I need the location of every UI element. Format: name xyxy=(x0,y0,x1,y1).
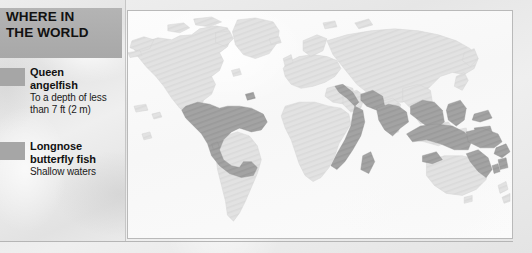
land-canada-arctic-1 xyxy=(168,23,190,33)
land-canada-arctic-2 xyxy=(194,17,222,27)
legend-text-queen-angelfish: Queen angelfish To a depth of less than … xyxy=(30,66,125,116)
land-svalbard xyxy=(323,21,337,29)
highlight-new-guinea-rim xyxy=(466,128,502,148)
highlight-fiji xyxy=(492,164,500,174)
land-new-zealand-1 xyxy=(498,181,508,193)
legend-swatch-queen-angelfish xyxy=(0,68,25,86)
legend-title-queen-angelfish: Queen angelfish xyxy=(30,66,125,91)
legend-swatch-longnose-butterfly-fish xyxy=(0,142,25,160)
land-tasmania xyxy=(464,195,472,203)
panel-divider xyxy=(125,0,126,242)
figure-where-in-the-world: WHERE IN THE WORLD Queen angelfish To a … xyxy=(0,0,532,253)
legend-description-longnose-butterfly-fish: Shallow waters xyxy=(30,166,125,178)
legend-description-queen-angelfish: To a depth of less than 7 ft (2 m) xyxy=(30,92,125,116)
highlight-philippines xyxy=(446,100,466,126)
world-map-svg xyxy=(128,11,512,238)
land-pacific-2 xyxy=(142,132,152,140)
highlight-indonesia xyxy=(407,124,473,150)
highlight-madagascar xyxy=(361,152,375,174)
land-new-zealand-2 xyxy=(502,193,510,203)
land-newfoundland xyxy=(231,68,241,76)
legend-panel: WHERE IN THE WORLD Queen angelfish To a … xyxy=(0,0,126,242)
land-novaya-zemlya xyxy=(355,19,373,29)
world-map-panel xyxy=(127,10,513,239)
land-africa xyxy=(281,102,351,181)
highlight-micronesia-1 xyxy=(472,110,492,122)
land-japan xyxy=(454,72,468,90)
land-scandinavia xyxy=(303,35,327,57)
land-pacific-1 xyxy=(134,104,148,112)
highlight-vanuatu xyxy=(498,158,508,170)
highlight-bermuda xyxy=(245,92,255,100)
highlight-india-coast xyxy=(377,104,409,136)
bottom-divider xyxy=(0,241,513,242)
highlight-southeast-asia xyxy=(411,100,445,128)
legend-text-longnose-butterfly-fish: Longnose butterfly fish Shallow waters xyxy=(30,140,125,178)
legend-title-longnose-butterfly-fish: Longnose butterfly fish xyxy=(30,140,125,165)
page-title: WHERE IN THE WORLD xyxy=(6,9,124,40)
land-hawaii xyxy=(152,112,162,119)
